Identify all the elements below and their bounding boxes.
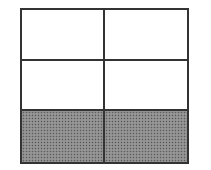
grid-cell-r2-c2 [105,61,188,112]
grid-cell-r1-c1 [22,10,105,61]
grid-cell-r3-c1-shaded [22,111,105,162]
grid-cell-r3-c2-shaded [105,111,188,162]
grid-cell-r2-c1 [22,61,105,112]
fraction-grid [20,8,189,164]
grid-cell-r1-c2 [105,10,188,61]
